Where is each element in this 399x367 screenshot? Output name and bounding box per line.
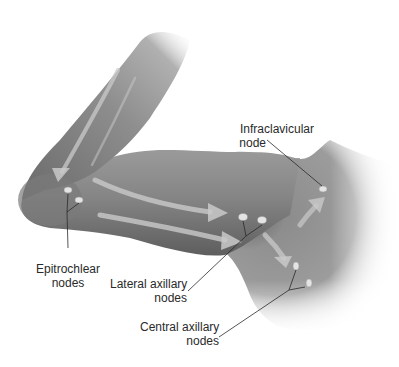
label-epitrochlear-line1: Epitrochlear <box>28 262 108 276</box>
epitrochlear-node-2 <box>75 197 83 203</box>
lateral-axillary-node-2 <box>258 217 267 224</box>
arm-lymphatic-diagram <box>0 0 399 367</box>
infraclavicular-node <box>319 186 327 192</box>
label-central-axillary: Central axillary nodes <box>140 320 219 348</box>
label-lateral-axillary-line2: nodes <box>110 291 187 305</box>
label-infraclavicular-line2: node <box>200 136 314 150</box>
label-lateral-axillary-line1: Lateral axillary <box>110 277 187 291</box>
label-lateral-axillary: Lateral axillary nodes <box>110 277 187 305</box>
epitrochlear-node-1 <box>64 187 72 193</box>
label-epitrochlear-line2: nodes <box>28 276 108 290</box>
label-central-axillary-line2: nodes <box>140 334 219 348</box>
label-epitrochlear: Epitrochlear nodes <box>28 262 108 290</box>
label-infraclavicular-line1: Infraclavicular <box>200 122 314 136</box>
label-infraclavicular: Infraclavicular node <box>200 122 314 150</box>
lateral-axillary-node-1 <box>239 214 248 221</box>
central-axillary-node-2 <box>306 279 312 287</box>
central-axillary-node-1 <box>293 262 299 270</box>
label-central-axillary-line1: Central axillary <box>140 320 219 334</box>
